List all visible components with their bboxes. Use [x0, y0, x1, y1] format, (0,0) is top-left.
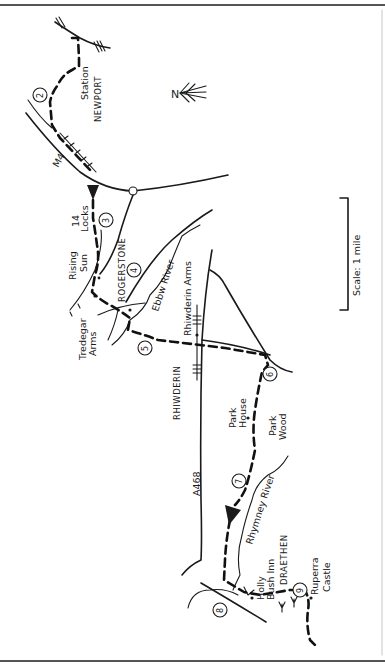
direction-arrow-1 [87, 185, 99, 200]
tredegar-arms-label-2: Arms [87, 332, 98, 356]
newport-label: NEWPORT [93, 76, 103, 122]
railway-newport [55, 17, 110, 52]
waypoint-8: 8 [213, 603, 227, 617]
fourteen-locks-label-2: Locks [79, 205, 90, 232]
roundabout-junction [129, 187, 137, 195]
road-branch-park [210, 270, 292, 372]
svg-text:7: 7 [235, 479, 244, 484]
a468-label: A468 [191, 471, 202, 496]
motorway-label: M4 [50, 151, 67, 169]
waypoint-2: 2 [33, 88, 47, 102]
svg-text:5: 5 [141, 346, 150, 351]
waypoint-4: 4 [127, 263, 141, 277]
rhiwderin-arms-label: Rhiwderin Arms [182, 261, 193, 336]
rogerstone-label: ROGERSTONE [117, 238, 127, 302]
park-wood-label-2: Wood [277, 414, 288, 441]
north-arrow: N [171, 83, 206, 102]
ruperra-castle-label-1: Ruperra [309, 557, 320, 595]
scale-label: Scale: 1 mile [351, 235, 362, 296]
holly-bush-inn-label-2: Bush Inn [265, 559, 276, 600]
waypoint-6: 6 [263, 367, 277, 381]
scale-bar: Scale: 1 mile [340, 198, 362, 310]
waypoint-5: 5 [138, 341, 152, 355]
waypoint-3: 3 [99, 213, 113, 227]
railway-rhiwderin [193, 305, 201, 380]
waypoint-9: 9 [293, 583, 307, 597]
svg-text:4: 4 [130, 268, 139, 273]
draethen-label: DRAETHEN [279, 534, 289, 585]
svg-text:3: 3 [102, 218, 111, 223]
svg-text:2: 2 [36, 93, 45, 98]
route-map: M4 Ebbw River A468 Rhymney River [0, 0, 385, 666]
road-ebbw-valley [126, 210, 212, 302]
park-house-marker [246, 416, 249, 419]
svg-text:9: 9 [296, 588, 305, 593]
rising-sun-label-2: Sun [78, 254, 89, 272]
svg-text:6: 6 [266, 372, 275, 377]
svg-text:8: 8 [216, 608, 225, 613]
rhiwderin-label: RHIWDERIN [172, 366, 182, 420]
waypoint-7: 7 [232, 474, 246, 488]
station-label: Station [79, 66, 90, 100]
direction-arrow-2 [225, 505, 241, 525]
park-house-label-2: House [237, 398, 248, 428]
ruperra-castle-label-2: Castle [321, 562, 332, 592]
ebbw-river-label: Ebbw River [149, 258, 176, 312]
rising-sun-label-1: Rising [67, 251, 78, 280]
motorway-m4: M4 [26, 100, 228, 191]
north-label: N [171, 88, 179, 101]
